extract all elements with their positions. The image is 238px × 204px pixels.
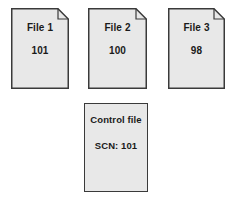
file-node-file-2[interactable]: File 2 100 [88,8,147,89]
control-file-scn-value: SCN: 101 [95,140,138,151]
file-node-title: File 3 [183,22,209,33]
diagram-canvas: File 1 101 File 2 100 File 3 98 Control … [0,0,238,204]
file-node-content: File 1 101 [11,8,69,89]
file-node-file-3[interactable]: File 3 98 [168,8,225,89]
file-node-value: 101 [32,45,49,56]
control-file-content: Control file SCN: 101 [85,104,147,191]
file-node-content: File 3 98 [168,8,225,89]
file-node-file-1[interactable]: File 1 101 [11,8,69,89]
file-node-value: 98 [191,45,202,56]
control-file-title: Control file [90,114,141,125]
file-node-content: File 2 100 [88,8,147,89]
file-node-title: File 2 [104,22,130,33]
file-node-value: 100 [109,45,126,56]
control-file-node[interactable]: Control file SCN: 101 [84,103,148,192]
file-node-title: File 1 [27,22,53,33]
